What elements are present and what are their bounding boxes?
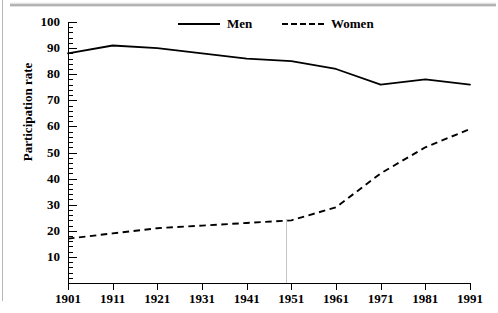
y-tick-major: [68, 48, 77, 49]
y-tick-major: [68, 153, 77, 154]
y-tick-minor: [68, 173, 73, 174]
y-tick-minor: [68, 236, 73, 237]
y-tick-major: [68, 74, 77, 75]
x-tick-label: 1991: [444, 292, 496, 305]
y-tick-minor: [68, 69, 73, 70]
y-tick-minor: [68, 215, 73, 216]
y-tick-minor: [68, 189, 73, 190]
series-line-men: [68, 45, 470, 84]
y-tick-major: [68, 179, 77, 180]
y-tick-label: 90: [20, 41, 60, 54]
y-tick-minor: [68, 59, 73, 60]
chart-figure: Participation rate Men Women 10203040506…: [0, 0, 498, 313]
y-tick-minor: [68, 273, 73, 274]
chart-legend: Men Women: [178, 14, 368, 34]
y-tick-major: [68, 231, 77, 232]
legend-item-women: Women: [282, 14, 374, 34]
y-tick-label: 10: [20, 250, 60, 263]
y-tick-minor: [68, 226, 73, 227]
y-tick-minor: [68, 241, 73, 242]
chart-series-layer: [0, 0, 498, 313]
x-tick: [291, 283, 292, 290]
y-tick-minor: [68, 210, 73, 211]
y-tick-label: 60: [20, 119, 60, 132]
y-tick-label: 40: [20, 172, 60, 185]
y-tick-minor: [68, 38, 73, 39]
y-tick-minor: [68, 79, 73, 80]
y-tick-minor: [68, 85, 73, 86]
y-tick-minor: [68, 106, 73, 107]
y-axis-title: Participation rate: [20, 32, 36, 192]
y-tick-minor: [68, 194, 73, 195]
y-tick-minor: [68, 27, 73, 28]
legend-line-solid-icon: [178, 23, 220, 25]
y-tick-minor: [68, 163, 73, 164]
x-tick: [381, 283, 382, 290]
y-tick-minor: [68, 121, 73, 122]
y-tick-minor: [68, 132, 73, 133]
y-tick-minor: [68, 252, 73, 253]
x-tick: [247, 283, 248, 290]
series-line-women: [68, 129, 470, 239]
y-tick-label: 70: [20, 93, 60, 106]
x-tick: [157, 283, 158, 290]
y-tick-minor: [68, 199, 73, 200]
y-tick-label: 50: [20, 146, 60, 159]
y-tick-minor: [68, 184, 73, 185]
y-tick-minor: [68, 147, 73, 148]
y-tick-minor: [68, 137, 73, 138]
y-tick-major: [68, 126, 77, 127]
x-tick: [113, 283, 114, 290]
y-tick-minor: [68, 142, 73, 143]
y-tick-label: 20: [20, 224, 60, 237]
y-tick-major: [68, 257, 77, 258]
y-tick-major: [68, 22, 77, 23]
y-tick-minor: [68, 220, 73, 221]
y-tick-label: 100: [20, 15, 60, 28]
y-tick-minor: [68, 246, 73, 247]
y-tick-minor: [68, 64, 73, 65]
legend-line-dashed-icon: [282, 23, 324, 25]
legend-label-women: Women: [331, 16, 374, 32]
y-tick-major: [68, 100, 77, 101]
y-tick-minor: [68, 53, 73, 54]
y-tick-minor: [68, 158, 73, 159]
x-tick: [68, 283, 69, 290]
scan-artifact-line: [286, 219, 287, 283]
y-tick-minor: [68, 116, 73, 117]
legend-label-men: Men: [227, 16, 252, 32]
x-tick: [202, 283, 203, 290]
y-tick-label: 30: [20, 198, 60, 211]
y-tick-minor: [68, 95, 73, 96]
x-tick: [425, 283, 426, 290]
y-tick-minor: [68, 43, 73, 44]
y-tick-minor: [68, 111, 73, 112]
x-tick: [336, 283, 337, 290]
clipped-document-rule: [10, 2, 496, 7]
y-tick-major: [68, 205, 77, 206]
y-tick-minor: [68, 32, 73, 33]
x-axis-line: [68, 283, 471, 284]
legend-item-men: Men: [178, 14, 252, 34]
x-tick: [470, 283, 471, 290]
y-tick-minor: [68, 262, 73, 263]
clipped-page-border: [2, 0, 3, 301]
y-tick-minor: [68, 278, 73, 279]
y-tick-minor: [68, 267, 73, 268]
y-tick-label: 80: [20, 67, 60, 80]
y-tick-minor: [68, 90, 73, 91]
y-tick-minor: [68, 168, 73, 169]
